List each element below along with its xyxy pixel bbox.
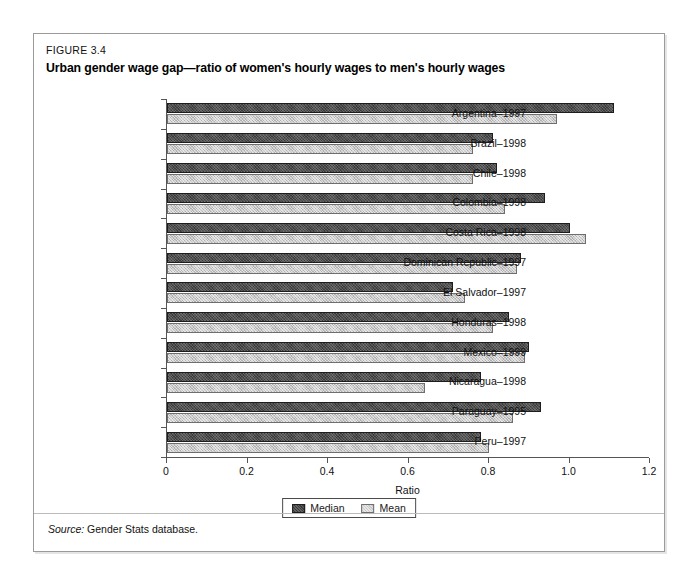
bar-mean-2 bbox=[167, 174, 473, 184]
x-axis-tick bbox=[247, 458, 248, 463]
category-label: Nicaragua–1998 bbox=[449, 375, 526, 387]
x-axis-tick bbox=[327, 458, 328, 463]
category-label: Honduras–1998 bbox=[451, 316, 526, 328]
bar-mean-11 bbox=[167, 443, 489, 453]
bar-mean-6 bbox=[167, 293, 465, 303]
x-axis-tick bbox=[649, 458, 650, 463]
bar-mean-1 bbox=[167, 144, 473, 154]
bar-mean-9 bbox=[167, 383, 425, 393]
y-axis-tick bbox=[161, 129, 166, 130]
y-axis-tick bbox=[161, 159, 166, 160]
x-axis-tick bbox=[569, 458, 570, 463]
x-axis-tick bbox=[488, 458, 489, 463]
y-axis-tick bbox=[161, 427, 166, 428]
figure-number: FIGURE 3.4 bbox=[46, 44, 106, 56]
bar-median-11 bbox=[167, 432, 481, 442]
source-note: Source: Gender Stats database. bbox=[48, 523, 198, 535]
x-axis-tick-label: 1.2 bbox=[642, 465, 657, 477]
source-text: Gender Stats database. bbox=[87, 523, 198, 535]
category-label: Dominican Republic–1997 bbox=[403, 256, 526, 268]
source-label: Source: bbox=[48, 523, 84, 535]
bar-median-1 bbox=[167, 133, 493, 143]
category-label: Peru–1997 bbox=[475, 435, 526, 447]
category-label: Paraguay–1995 bbox=[452, 405, 526, 417]
x-axis-tick-label: 0.6 bbox=[400, 465, 415, 477]
x-axis-tick-label: 0.2 bbox=[239, 465, 254, 477]
source-divider bbox=[34, 513, 664, 514]
category-label: Mexico–1999 bbox=[464, 346, 526, 358]
x-axis-tick-label: 0.8 bbox=[481, 465, 496, 477]
y-axis-tick bbox=[161, 218, 166, 219]
y-axis-tick bbox=[161, 308, 166, 309]
chart-legend: Median Mean bbox=[282, 498, 416, 518]
legend-swatch-mean-icon bbox=[362, 504, 375, 513]
y-axis-tick bbox=[161, 278, 166, 279]
bar-median-6 bbox=[167, 282, 453, 292]
figure-title: Urban gender wage gap—ratio of women's h… bbox=[46, 61, 505, 75]
figure-root: FIGURE 3.4 Urban gender wage gap—ratio o… bbox=[0, 0, 696, 585]
plot-area: 00.20.40.60.81.01.2 Ratio bbox=[166, 99, 649, 457]
y-axis-tick bbox=[161, 248, 166, 249]
x-axis-tick-label: 0 bbox=[163, 465, 169, 477]
x-axis-title: Ratio bbox=[166, 484, 649, 496]
x-axis-tick bbox=[408, 458, 409, 463]
bar-median-2 bbox=[167, 163, 497, 173]
figure-panel: FIGURE 3.4 Urban gender wage gap—ratio o… bbox=[33, 33, 665, 552]
y-axis-tick bbox=[161, 397, 166, 398]
y-axis-tick bbox=[161, 368, 166, 369]
bar-median-9 bbox=[167, 372, 481, 382]
x-axis-tick-label: 1.0 bbox=[561, 465, 576, 477]
category-label: Costa Rica–1998 bbox=[445, 226, 526, 238]
category-label: Brazil–1998 bbox=[471, 137, 526, 149]
x-axis-tick-label: 0.4 bbox=[320, 465, 335, 477]
bar-median-0 bbox=[167, 103, 614, 113]
category-label: Argentina–1997 bbox=[452, 107, 526, 119]
x-axis-tick bbox=[166, 458, 167, 463]
legend-swatch-median-icon bbox=[292, 504, 305, 513]
y-axis-tick bbox=[161, 99, 166, 100]
category-label: Colombia–1998 bbox=[452, 196, 526, 208]
bar-mean-7 bbox=[167, 323, 493, 333]
y-axis-tick bbox=[161, 189, 166, 190]
category-label: Chile–1998 bbox=[473, 167, 526, 179]
category-label: El Salvador–1997 bbox=[443, 286, 526, 298]
y-axis-tick bbox=[161, 338, 166, 339]
